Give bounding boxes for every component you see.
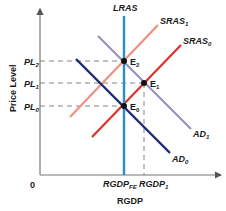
ad0-label: AD0 xyxy=(171,154,189,165)
rgdp1-label: RGDP1 xyxy=(139,179,169,190)
sras1-curve xyxy=(70,25,158,117)
e2-label: E2 xyxy=(130,57,140,68)
ad-as-diagram: LRAS SRAS1 SRAS0 AD1 AD0 E2 E1 E0 PL2 PL… xyxy=(0,0,226,211)
e0-point xyxy=(121,103,127,109)
pl2-label: PL2 xyxy=(24,57,40,68)
pl0-label: PL0 xyxy=(24,102,40,113)
origin-label: 0 xyxy=(30,180,35,190)
e1-point xyxy=(141,80,147,86)
sras0-label: SRAS0 xyxy=(183,36,212,47)
y-axis-title: Price Level xyxy=(8,64,18,112)
e1-label: E1 xyxy=(150,79,160,90)
x-axis-title: RGDP xyxy=(117,196,143,206)
ad1-label: AD1 xyxy=(192,129,210,140)
sras1-label: SRAS1 xyxy=(160,16,189,27)
pl1-label: PL1 xyxy=(24,79,40,90)
e0-label: E0 xyxy=(130,102,140,113)
lras-label: LRAS xyxy=(113,3,138,13)
e2-point xyxy=(121,58,127,64)
sras0-curve xyxy=(92,45,181,137)
rgdp-fe-label: RGDPFE xyxy=(103,179,138,190)
